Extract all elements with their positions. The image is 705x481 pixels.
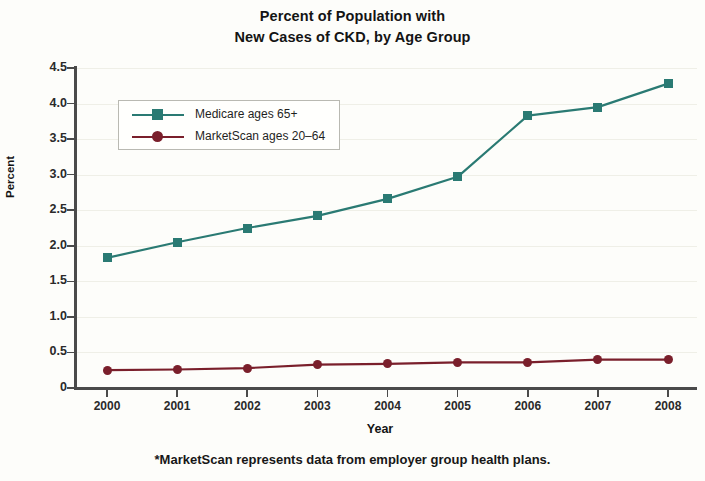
data-point[interactable] <box>243 224 252 233</box>
data-point[interactable] <box>383 194 392 203</box>
legend-label-medicare: Medicare ages 65+ <box>195 107 297 121</box>
footnote: *MarketScan represents data from employe… <box>0 452 705 467</box>
legend: Medicare ages 65+ MarketScan ages 20–64 <box>118 100 340 150</box>
data-point[interactable] <box>664 79 673 88</box>
legend-marker-square-icon <box>152 109 163 120</box>
data-point[interactable] <box>173 238 182 247</box>
data-point[interactable] <box>313 360 322 369</box>
series-lines <box>0 0 705 481</box>
legend-label-marketscan: MarketScan ages 20–64 <box>195 129 325 143</box>
data-point[interactable] <box>243 364 252 373</box>
legend-item-medicare[interactable]: Medicare ages 65+ <box>119 104 341 126</box>
data-point[interactable] <box>313 211 322 220</box>
data-point[interactable] <box>103 253 112 262</box>
data-point[interactable] <box>453 358 462 367</box>
legend-marker-circle-icon <box>152 131 163 142</box>
legend-item-marketscan[interactable]: MarketScan ages 20–64 <box>119 126 341 148</box>
data-point[interactable] <box>103 366 112 375</box>
data-point[interactable] <box>173 365 182 374</box>
data-point[interactable] <box>593 103 602 112</box>
data-point[interactable] <box>453 172 462 181</box>
data-point[interactable] <box>523 111 532 120</box>
chart-figure: Percent of Population with New Cases of … <box>0 0 705 481</box>
data-point[interactable] <box>664 355 673 364</box>
